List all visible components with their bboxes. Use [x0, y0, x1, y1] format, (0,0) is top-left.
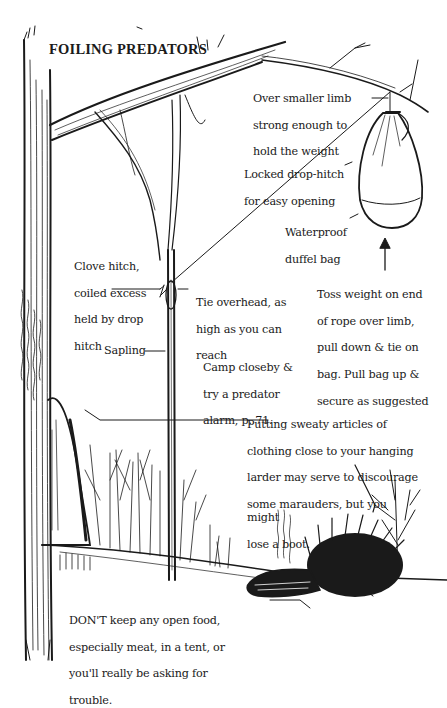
sapling-icon	[160, 250, 176, 580]
label-sweaty-articles: Putting sweaty articles of clothing clos…	[247, 405, 421, 565]
duffel-bag-icon	[359, 112, 422, 228]
label-toss-weight: Toss weight on end of rope over limb, pu…	[317, 275, 428, 421]
label-dont-keep-food: DON'T keep any open food, especially mea…	[69, 601, 239, 708]
page-title: FOILING PREDATORS	[49, 41, 207, 58]
boot-icon	[247, 569, 320, 608]
label-sapling: Sapling	[104, 344, 146, 357]
label-drop-hitch: Locked drop-hitch for easy opening	[244, 155, 344, 221]
tent-icon	[42, 398, 90, 545]
label-duffel-bag: Waterproof duffel bag	[285, 213, 347, 279]
